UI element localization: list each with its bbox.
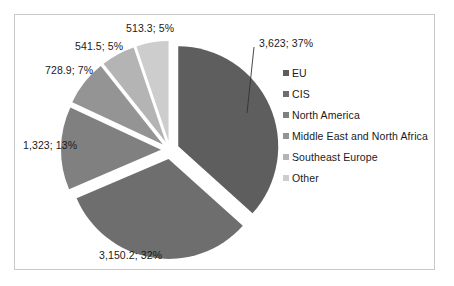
legend-swatch-icon-southeast-europe (283, 154, 289, 160)
data-label-cis: 3,150.2; 32% (99, 249, 162, 261)
legend-swatch-icon-eu (283, 70, 289, 76)
pie-chart-plot-area: 3,623; 37% 3,150.2; 32% 1,323; 13% 728.9… (0, 0, 454, 286)
legend-swatch-icon-north-america (283, 112, 289, 118)
data-label-north-america: 1,323; 13% (23, 139, 77, 151)
legend-swatch-icon-other (283, 175, 289, 181)
legend-label-southeast-europe: Southeast Europe (292, 151, 378, 163)
legend-label-cis: CIS (292, 88, 310, 100)
legend-item-southeast-europe[interactable]: Southeast Europe (283, 146, 433, 167)
data-label-eu: 3,623; 37% (259, 37, 313, 49)
legend-item-north-america[interactable]: North America (283, 104, 433, 125)
legend-item-middle-east-and-north-africa[interactable]: Middle East and North Africa (283, 125, 433, 146)
legend-item-eu[interactable]: EU (283, 62, 433, 83)
pie-slices (61, 41, 278, 259)
legend-item-other[interactable]: Other (283, 167, 433, 188)
legend-label-eu: EU (292, 67, 307, 79)
legend-swatch-icon-cis (283, 91, 289, 97)
data-label-other: 513.3; 5% (126, 22, 174, 34)
data-label-middle-east-and-north-africa: 728.9; 7% (45, 64, 93, 76)
legend-item-cis[interactable]: CIS (283, 83, 433, 104)
legend-swatch-icon-middle-east-and-north-africa (283, 133, 289, 139)
chart-legend: EU CIS North America Middle East and Nor… (283, 62, 433, 188)
legend-label-middle-east-and-north-africa: Middle East and North Africa (292, 130, 428, 142)
data-label-southeast-europe: 541.5; 5% (75, 40, 123, 52)
legend-label-north-america: North America (292, 109, 360, 121)
legend-label-other: Other (292, 172, 319, 184)
